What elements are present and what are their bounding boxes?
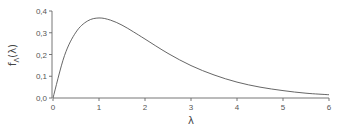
chart: 0,00,10,20,30,4 0123456 λ fΛ(λ) bbox=[0, 0, 348, 131]
series-line-density bbox=[53, 18, 329, 98]
y-tick-label: 0,0 bbox=[36, 94, 48, 103]
x-tick-label: 0 bbox=[51, 103, 56, 112]
y-tick-label: 0,1 bbox=[36, 72, 48, 81]
y-tick-label: 0,4 bbox=[36, 7, 48, 16]
y-axis: 0,00,10,20,30,4 bbox=[36, 7, 52, 103]
x-axis-label: λ bbox=[188, 115, 194, 126]
svg-text:fΛ(λ): fΛ(λ) bbox=[7, 44, 21, 66]
y-tick-label: 0,3 bbox=[36, 29, 48, 38]
x-axis: 0123456 bbox=[51, 98, 332, 112]
series-layer bbox=[53, 18, 329, 98]
y-axis-label-arg: (λ) bbox=[7, 44, 18, 58]
x-tick-label: 2 bbox=[143, 103, 148, 112]
x-tick-label: 5 bbox=[281, 103, 286, 112]
x-tick-label: 4 bbox=[235, 103, 240, 112]
x-tick-label: 3 bbox=[189, 103, 194, 112]
y-axis-label: fΛ(λ) bbox=[7, 44, 21, 66]
y-tick-label: 0,2 bbox=[36, 51, 48, 60]
x-tick-label: 1 bbox=[97, 103, 102, 112]
x-tick-label: 6 bbox=[327, 103, 332, 112]
